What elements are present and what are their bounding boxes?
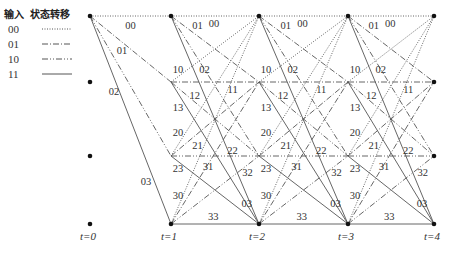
time-label-3: t=3	[338, 230, 354, 242]
state-node	[432, 80, 437, 85]
edge-label-31: 31	[379, 161, 390, 172]
edge-label-23: 23	[173, 163, 184, 174]
edge-label-31: 31	[291, 161, 302, 172]
edge-label-02: 02	[199, 64, 210, 75]
time-label-1: t=1	[161, 230, 177, 242]
state-node	[169, 14, 174, 19]
transition-edge-03	[90, 16, 171, 224]
edge-label-11: 11	[228, 84, 238, 95]
edge-label-13: 13	[173, 102, 184, 113]
edge-label-31: 31	[203, 161, 214, 172]
edge-label-01: 01	[192, 20, 203, 31]
edge-label-32: 32	[242, 167, 253, 178]
state-node	[88, 80, 93, 85]
edge-label-03: 03	[141, 176, 152, 187]
edge-label-13: 13	[350, 102, 361, 113]
edge-label-22: 22	[227, 145, 238, 156]
edge-label-10: 10	[261, 64, 272, 75]
edge-label-20: 20	[350, 127, 361, 138]
edge-label-30: 30	[173, 190, 184, 201]
edge-label-30: 30	[261, 190, 272, 201]
edge-label-21: 21	[369, 140, 380, 151]
edge-label-00: 00	[297, 18, 308, 29]
edge-label-00: 00	[125, 20, 136, 31]
edge-label-33: 33	[208, 211, 219, 222]
edge-label-21: 21	[280, 140, 291, 151]
state-node	[169, 222, 174, 227]
trellis-graph: 0001020301001002111213202122233132300333…	[0, 0, 453, 254]
edge-label-01: 01	[117, 45, 128, 56]
edge-label-12: 12	[190, 90, 201, 101]
state-node	[257, 14, 262, 19]
edge-label-01: 01	[280, 20, 291, 31]
edge-label-22: 22	[316, 145, 327, 156]
edge-label-01: 01	[369, 20, 380, 31]
state-node	[88, 154, 93, 159]
edge-label-02: 02	[375, 64, 386, 75]
edge-label-00: 00	[385, 18, 396, 29]
edge-label-23: 23	[350, 163, 361, 174]
state-node	[432, 154, 437, 159]
edge-label-03: 03	[417, 198, 428, 209]
edge-label-11: 11	[316, 84, 326, 95]
state-node	[346, 14, 351, 19]
edge-label-12: 12	[278, 90, 289, 101]
state-node	[88, 14, 93, 19]
state-node	[88, 222, 93, 227]
edge-label-23: 23	[261, 163, 272, 174]
edge-label-22: 22	[403, 145, 414, 156]
transition-edge-02	[90, 16, 171, 156]
edge-label-02: 02	[288, 64, 299, 75]
state-node	[432, 14, 437, 19]
edge-label-30: 30	[350, 190, 361, 201]
trellis-diagram: 输入 状态转移 00 01 10 11 00010203010010021112…	[0, 0, 453, 254]
edge-label-03: 03	[330, 198, 341, 209]
time-label-0: t=0	[80, 230, 96, 242]
transition-edge-20	[348, 16, 434, 156]
state-node	[346, 222, 351, 227]
edge-label-00: 00	[209, 18, 220, 29]
edge-label-10: 10	[350, 64, 361, 75]
time-label-4: t=4	[424, 230, 440, 242]
edge-label-02: 02	[109, 86, 120, 97]
edge-label-21: 21	[192, 140, 203, 151]
time-label-2: t=2	[249, 230, 265, 242]
edge-label-03: 03	[241, 198, 252, 209]
edge-label-20: 20	[261, 127, 272, 138]
edge-label-20: 20	[173, 127, 184, 138]
transition-edge-02	[348, 16, 434, 156]
edge-label-13: 13	[261, 102, 272, 113]
edge-label-32: 32	[418, 167, 429, 178]
edge-label-33: 33	[384, 211, 395, 222]
state-node	[257, 222, 262, 227]
state-node	[432, 222, 437, 227]
edge-label-12: 12	[366, 90, 377, 101]
edge-label-11: 11	[403, 84, 413, 95]
edge-label-33: 33	[296, 211, 307, 222]
edge-label-10: 10	[173, 64, 184, 75]
edge-label-32: 32	[331, 167, 342, 178]
